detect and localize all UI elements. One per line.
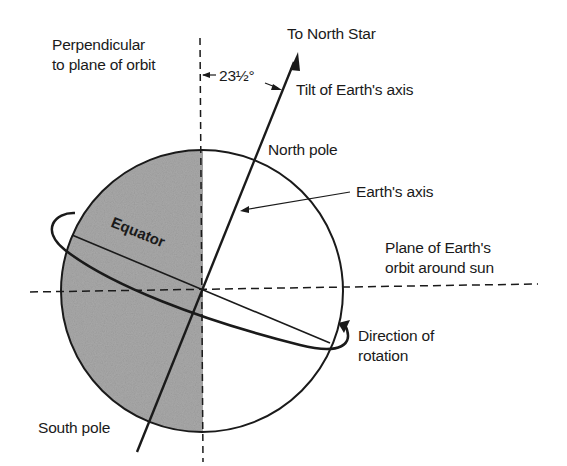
north-star-arrowhead-icon bbox=[290, 52, 300, 71]
rotation-label-line2: rotation bbox=[358, 346, 408, 365]
angle-label: 23½° bbox=[219, 66, 255, 85]
south-pole-label: South pole bbox=[38, 418, 110, 437]
perpendicular-label-line1: Perpendicular bbox=[52, 35, 145, 54]
perpendicular-label-line2: to plane of orbit bbox=[52, 55, 155, 74]
tilt-label: Tilt of Earth's axis bbox=[296, 80, 413, 99]
angle-right-arrowhead-icon bbox=[271, 84, 282, 90]
rotation-label-line1: Direction of bbox=[358, 326, 434, 345]
north-star-label: To North Star bbox=[287, 24, 376, 43]
earths-axis-pointer-arrowhead-icon bbox=[240, 206, 249, 213]
north-pole-label: North pole bbox=[268, 140, 338, 159]
earths-axis-pointer bbox=[243, 192, 350, 210]
earths-axis-label: Earth's axis bbox=[356, 182, 433, 201]
angle-left-arrowhead-icon bbox=[202, 72, 210, 78]
orbit-plane-label-line2: orbit around sun bbox=[385, 258, 494, 277]
orbit-plane-label-line1: Plane of Earth's bbox=[385, 238, 491, 257]
